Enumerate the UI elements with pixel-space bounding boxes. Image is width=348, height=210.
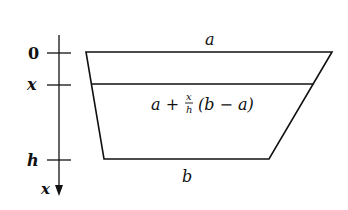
- tick-label-h: h: [27, 151, 39, 170]
- bottom-width-label: b: [182, 167, 192, 186]
- formula-prefix: a +: [151, 95, 179, 114]
- trapezoid-diagram: 0 x h x a b a + x h (b − a): [0, 0, 348, 210]
- axis-arrowhead-icon: [55, 185, 63, 196]
- formula-frac-numerator: x: [186, 91, 192, 102]
- formula-suffix: (b − a): [198, 95, 254, 114]
- axis-direction-label: x: [40, 180, 51, 198]
- tick-label-0: 0: [28, 44, 39, 63]
- formula-frac-denominator: h: [186, 104, 192, 115]
- slice-width-formula: a + x h (b − a): [151, 91, 254, 115]
- top-width-label: a: [205, 30, 215, 49]
- tick-label-x: x: [26, 75, 37, 94]
